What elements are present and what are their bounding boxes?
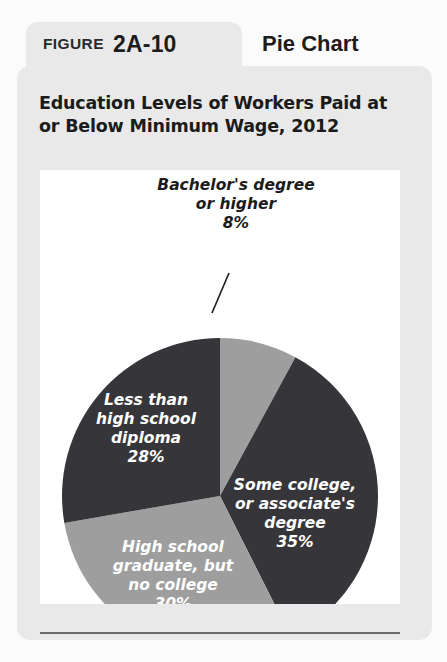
figure-tab: FIGURE 2A-10 — [26, 22, 242, 66]
figure-kind-label: Pie Chart — [262, 22, 359, 66]
leader-line-bachelors — [212, 273, 229, 313]
figure-page: FIGURE 2A-10 Pie Chart Education Levels … — [0, 0, 447, 662]
figure-title: Education Levels of Workers Paid at or B… — [39, 92, 391, 139]
pie-chart-svg: Bachelor's degreeor higher8%Some college… — [40, 170, 400, 604]
figure-label-word: FIGURE — [43, 35, 104, 53]
pie-chart: Bachelor's degreeor higher8%Some college… — [40, 170, 400, 604]
pie-slice-label: Bachelor's degreeor higher8% — [157, 176, 314, 232]
tab-card-joint — [26, 66, 242, 82]
chart-panel: Bachelor's degreeor higher8%Some college… — [40, 170, 400, 604]
figure-bottom-rule — [40, 632, 400, 634]
figure-number: 2A-10 — [113, 31, 177, 58]
